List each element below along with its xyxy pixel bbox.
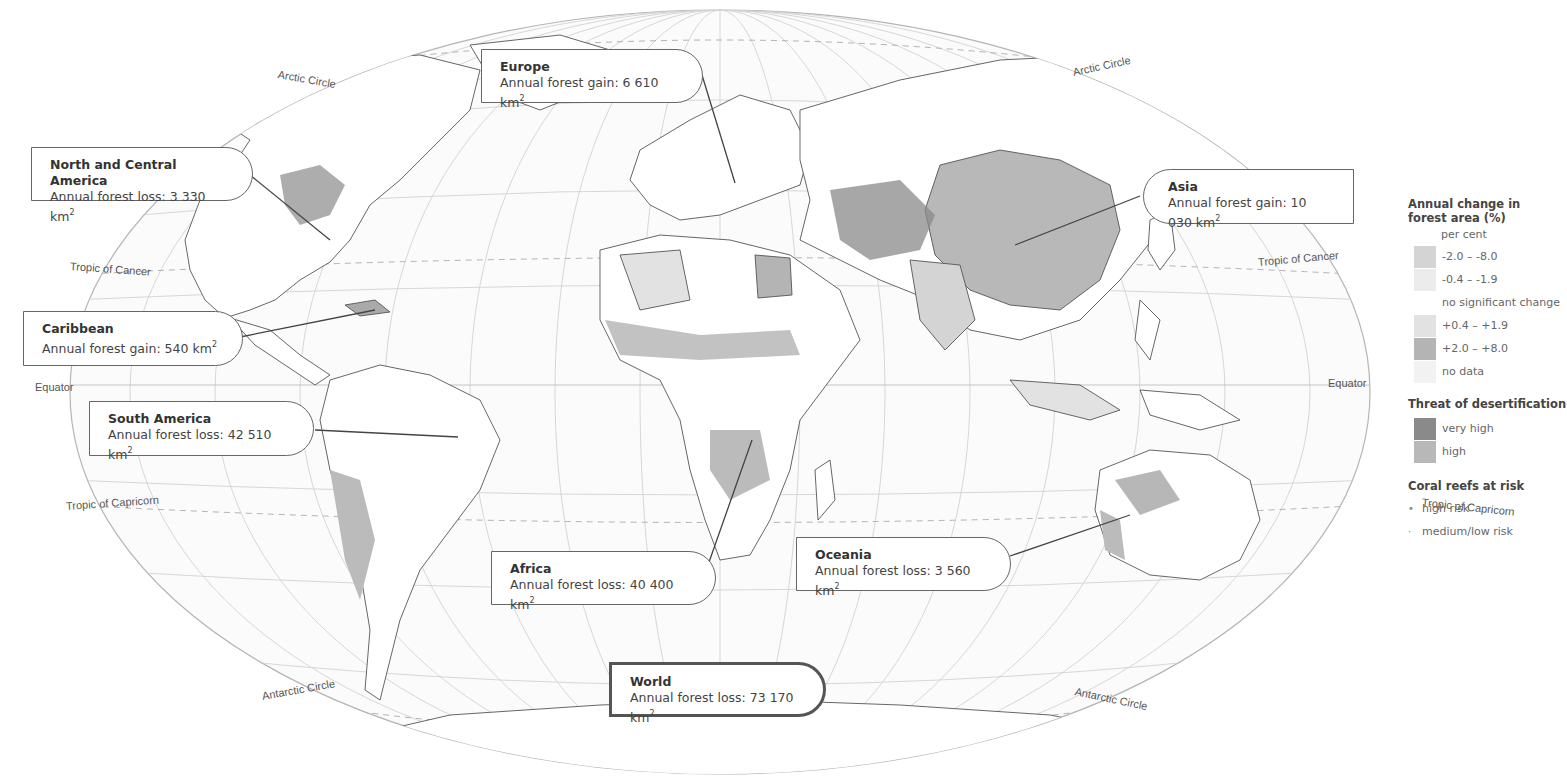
legend-item-no-change: no significant change [1408, 291, 1567, 314]
equator-label-west: Equator [35, 381, 74, 393]
callout-south-america: South America Annual forest loss: 42 510… [89, 401, 314, 456]
swatch [1414, 269, 1436, 291]
callout-region: North and Central America [50, 157, 228, 189]
legend-item-no-data: no data [1408, 360, 1567, 383]
swatch [1414, 292, 1436, 314]
callout-region: Africa [510, 561, 691, 577]
legend-item-desert-high: high [1408, 440, 1567, 463]
swatch [1414, 338, 1436, 360]
legend-item-loss-low: -0.4 – -1.9 [1408, 268, 1567, 291]
legend-desertification-title: Threat of desertification [1408, 397, 1567, 411]
callout-label: Annual forest gain: [42, 341, 161, 356]
callout-caribbean: Caribbean Annual forest gain: 540 km2 [23, 311, 243, 366]
callout-region: Oceania [815, 547, 986, 563]
swatch [1414, 315, 1436, 337]
callout-europe: Europe Annual forest gain: 6 610 km2 [481, 49, 703, 103]
equator-label-east: Equator [1328, 377, 1367, 389]
legend-item-desert-very-high: very high [1408, 417, 1567, 440]
callout-region: World [630, 674, 799, 690]
callout-region: South America [108, 411, 289, 427]
callout-value: 42 510 [228, 427, 272, 442]
callout-oceania: Oceania Annual forest loss: 3 560 km2 [796, 537, 1011, 591]
callout-value: 6 610 [623, 75, 659, 90]
legend-item-coral-medium-low: · medium/low risk [1408, 520, 1567, 543]
dot-icon: • [1408, 503, 1418, 514]
callout-asia: Asia Annual forest gain: 10 030 km2 [1143, 169, 1354, 224]
callout-north-central-america: North and Central America Annual forest … [31, 147, 253, 201]
callout-label: Annual forest gain: [1168, 195, 1287, 210]
callout-label: Annual forest gain: [500, 75, 619, 90]
callout-label: Annual forest loss: [50, 189, 166, 204]
callout-value: 3 560 [935, 563, 971, 578]
swatch [1414, 361, 1436, 383]
callout-region: Europe [500, 59, 678, 75]
callout-world: World Annual forest loss: 73 170 km2 [609, 662, 826, 717]
callout-africa: Africa Annual forest loss: 40 400 km2 [491, 551, 716, 605]
callout-region: Asia [1168, 179, 1329, 195]
legend-item-gain-low: +0.4 – +1.9 [1408, 314, 1567, 337]
callout-label: Annual forest loss: [510, 577, 626, 592]
callout-value: 73 170 [750, 690, 794, 705]
swatch [1414, 441, 1436, 463]
callout-value: 40 400 [630, 577, 674, 592]
swatch [1414, 246, 1436, 268]
callout-label: Annual forest loss: [630, 690, 746, 705]
dot-icon: · [1408, 526, 1418, 537]
legend: Annual change in forest area (%) per cen… [1408, 197, 1567, 543]
callout-value: 3 330 [170, 189, 206, 204]
callout-value: 540 [165, 341, 189, 356]
callout-region: Caribbean [42, 321, 218, 337]
legend-coral-title: Coral reefs at risk [1408, 479, 1567, 493]
legend-item-gain-high: +2.0 – +8.0 [1408, 337, 1567, 360]
swatch [1414, 418, 1436, 440]
callout-label: Annual forest loss: [108, 427, 224, 442]
legend-forest-title: Annual change in forest area (%) [1408, 197, 1567, 225]
legend-item-coral-high: • high risk [1408, 497, 1567, 520]
callout-label: Annual forest loss: [815, 563, 931, 578]
legend-item-loss-high: -2.0 – -8.0 [1408, 245, 1567, 268]
legend-unit: per cent [1408, 225, 1567, 245]
